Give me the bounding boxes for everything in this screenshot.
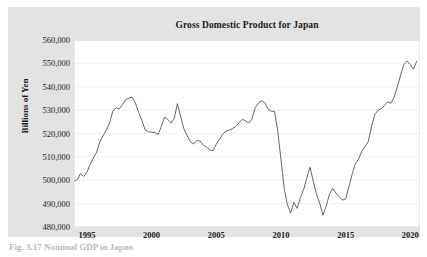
plot-area xyxy=(74,40,420,227)
gridlines xyxy=(74,63,420,203)
chart-title: Gross Domestic Product for Japan xyxy=(74,20,420,30)
y-axis-tick-label: 500,000 xyxy=(26,175,70,185)
x-axis-tick-label: 2015 xyxy=(337,230,354,240)
line-chart-svg xyxy=(74,40,420,227)
y-axis-tick-label: 520,000 xyxy=(26,129,70,139)
x-axis-tick-label: 2000 xyxy=(143,230,160,240)
y-axis-tick-label: 530,000 xyxy=(26,105,70,115)
x-axis-tick-label: 2005 xyxy=(208,230,225,240)
figure-panel: Gross Domestic Product for Japan Billion… xyxy=(8,7,420,237)
x-axis-tick-label: 1995 xyxy=(78,230,95,240)
y-axis-tick-label: 550,000 xyxy=(26,58,70,68)
figure-caption: Fig. 3.17 Nominal GDP in Japan xyxy=(9,242,133,252)
y-axis-tick-labels: 560,000550,000540,000530,000520,000510,0… xyxy=(22,40,70,227)
y-axis-tick-label: 560,000 xyxy=(26,35,70,45)
y-axis-tick-label: 480,000 xyxy=(26,222,70,232)
x-axis-tick-label: 2010 xyxy=(272,230,289,240)
y-axis-tick-label: 490,000 xyxy=(26,199,70,209)
x-axis-tick-label: 2020 xyxy=(402,230,419,240)
y-axis-tick-label: 510,000 xyxy=(26,152,70,162)
figure-screenshot: Gross Domestic Product for Japan Billion… xyxy=(0,0,427,257)
gdp-series-line xyxy=(74,61,417,215)
y-axis-tick-label: 540,000 xyxy=(26,82,70,92)
